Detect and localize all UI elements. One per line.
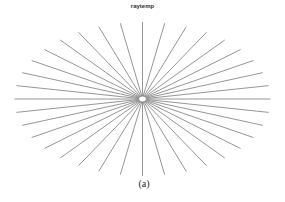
ray-diagram xyxy=(0,0,285,202)
figure-caption: (a) xyxy=(0,178,285,189)
center-hub xyxy=(139,96,147,102)
